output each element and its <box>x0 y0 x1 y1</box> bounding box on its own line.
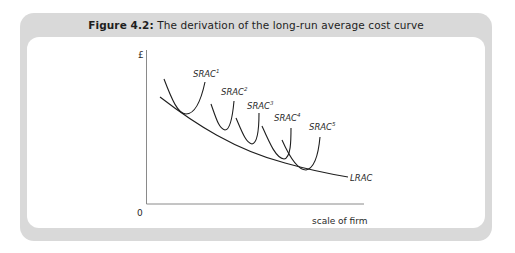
x-axis-label: scale of firm <box>312 216 368 226</box>
srac1-label: SRAC1 <box>193 68 220 79</box>
srac4-curve <box>262 126 291 159</box>
lrac-diagram: £ 0 scale of firm LRAC SRAC1 SRAC2 SRAC3… <box>0 0 515 253</box>
srac5-label: SRAC5 <box>309 121 336 132</box>
srac2-label: SRAC2 <box>221 86 248 97</box>
srac3-curve <box>236 113 259 144</box>
srac1-curve <box>164 79 205 114</box>
srac4-label: SRAC4 <box>274 112 301 123</box>
y-axis-label: £ <box>138 50 144 60</box>
srac3-label: SRAC3 <box>247 100 274 111</box>
lrac-label: LRAC <box>350 173 372 183</box>
origin-label: 0 <box>137 208 143 218</box>
srac2-curve <box>211 101 234 130</box>
srac5-curve <box>282 137 320 170</box>
